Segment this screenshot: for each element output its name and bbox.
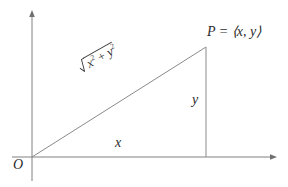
origin-label: O <box>13 158 23 172</box>
point-label: P = ⟨x, y⟩ <box>207 25 261 39</box>
horizontal-axis-arrowhead-icon <box>270 154 277 160</box>
horizontal-leg-label: x <box>115 136 121 150</box>
vertical-leg-label: y <box>192 93 198 107</box>
distance-formula-figure: O P = ⟨x, y⟩ x y x2 + y2 <box>0 0 288 187</box>
point-label-text: P = ⟨x, y⟩ <box>207 24 261 39</box>
vertical-axis-arrowhead-icon <box>29 10 35 17</box>
